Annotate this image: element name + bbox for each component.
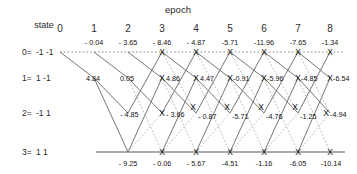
epoch-tick-7: 7 — [295, 23, 301, 34]
metric-s2-e6: -4.76 — [266, 112, 282, 121]
survivor-marker-s0-e5: X — [227, 47, 233, 57]
epoch-header-label: epoch — [165, 4, 191, 15]
survivor-marker-s3-e5: X — [227, 147, 233, 157]
metric-s0-e2: - 3.65 — [119, 38, 137, 47]
survivor-marker-s3-e4: X — [193, 147, 199, 157]
metric-s2-e3: - 3.66 — [166, 110, 184, 119]
survivor-marker-s0-e6: X — [261, 47, 267, 57]
state-label-0-bits: -1 -1 — [36, 47, 54, 57]
metric-s1-e2: 0.05 — [120, 74, 134, 83]
survivor-marker-s0-e3: X — [159, 47, 165, 57]
metric-s1-e3: 4.86 — [166, 74, 180, 83]
state-label-2-bits: -1 1 — [36, 108, 51, 118]
epoch-tick-6: 6 — [261, 23, 267, 34]
epoch-tick-2: 2 — [125, 23, 131, 34]
survivor-marker-s0-e4: X — [193, 47, 199, 57]
survivor-marker-s2-e8: X — [323, 108, 329, 118]
metric-s3-e7: -6.05 — [290, 159, 306, 168]
state-label-1-prefix: 1= — [22, 73, 32, 83]
survivor-marker-s3-e7: X — [295, 147, 301, 157]
metric-labels-state-3: - 9.25 - 0.06 - 5.67 -4.51 -1.16 -6.05 -… — [119, 159, 341, 168]
survivor-marker-s3-e6: X — [261, 147, 267, 157]
metric-labels-state-1: 4.84 0.05 4.86 4.47 -0.91 -5.96 -4.85 -6… — [86, 74, 349, 83]
metric-s2-e8: -4.94 — [330, 110, 346, 119]
viterbi-trellis-diagram: epoch state 0 1 2 3 4 5 6 7 8 0= -1 -1 1… — [0, 0, 357, 174]
state-label-2-prefix: 2= — [22, 108, 32, 118]
metric-s1-e4: 4.47 — [200, 74, 214, 83]
survivor-marker-s0-e7: X — [295, 47, 301, 57]
epoch-tick-0: 0 — [57, 23, 63, 34]
metric-s1-e6: -5.96 — [267, 74, 283, 83]
metric-s0-e8: -1.34 — [322, 38, 338, 47]
metric-s3-e6: -1.16 — [256, 159, 272, 168]
metric-s2-e7: -1.25 — [300, 112, 316, 121]
survivor-marker-s0-e8: X — [327, 47, 333, 57]
survivor-marker-s3-e3: X — [159, 147, 165, 157]
metric-s2-e2: - 4.85 — [120, 110, 138, 119]
metric-s2-e5: -5.71 — [232, 112, 248, 121]
metric-s0-e1: - 0.04 — [85, 38, 103, 47]
survivor-marker-s2-e6: X — [258, 102, 264, 112]
metric-s2-e4: - 0.87 — [198, 112, 216, 121]
metric-s1-e7: -4.85 — [301, 74, 317, 83]
epoch-tick-1: 1 — [91, 23, 97, 34]
epoch-tick-8: 8 — [327, 23, 333, 34]
metric-s0-e7: -7.65 — [290, 38, 306, 47]
metric-s3-e5: -4.51 — [222, 159, 238, 168]
survivor-marker-s2-e4: X — [190, 102, 196, 112]
metric-s1-e5: -0.91 — [233, 74, 249, 83]
metric-s0-e5: -5.71 — [222, 38, 238, 47]
metric-s0-e6: -11.96 — [254, 38, 274, 47]
survivor-marker-s2-e3: X — [159, 108, 165, 118]
epoch-axis-ticks: 0 1 2 3 4 5 6 7 8 — [57, 23, 333, 34]
epoch-tick-3: 3 — [159, 23, 165, 34]
state-label-3-bits: 1 1 — [36, 147, 48, 157]
metric-s3-e2: - 9.25 — [119, 159, 137, 168]
metric-s0-e3: - 8.46 — [153, 38, 171, 47]
metric-s0-e4: - 4.87 — [187, 38, 205, 47]
metric-s3-e3: - 0.06 — [153, 159, 171, 168]
epoch-tick-5: 5 — [227, 23, 233, 34]
state-label-0-prefix: 0= — [22, 47, 32, 57]
state-label-3-prefix: 3= — [22, 147, 32, 157]
metric-labels-state-2: - 4.85 - 3.66 - 0.87 -5.71 -4.76 -1.25 -… — [120, 110, 346, 121]
survivor-marker-s2-e5: X — [224, 102, 230, 112]
survivor-marker-s1-e4: X — [193, 73, 199, 83]
metric-s1-e8: -6.54 — [333, 74, 349, 83]
metric-labels-state-0: - 0.04 - 3.65 - 8.46 - 4.87 -5.71 -11.96… — [85, 38, 338, 47]
epoch-tick-4: 4 — [193, 23, 199, 34]
survivor-marker-s1-e3: X — [159, 73, 165, 83]
metric-s3-e8: -10.14 — [321, 159, 341, 168]
metric-s3-e4: - 5.67 — [187, 159, 205, 168]
survivor-marker-s2-e7: X — [292, 102, 298, 112]
metric-s1-e1: 4.84 — [86, 74, 100, 83]
state-axis-labels: 0= -1 -1 1= 1 -1 2= -1 1 3= 1 1 — [22, 47, 54, 157]
state-header-label: state — [34, 20, 54, 30]
survivor-marker-s3-e8: X — [327, 147, 333, 157]
state-label-1-bits: 1 -1 — [36, 73, 51, 83]
